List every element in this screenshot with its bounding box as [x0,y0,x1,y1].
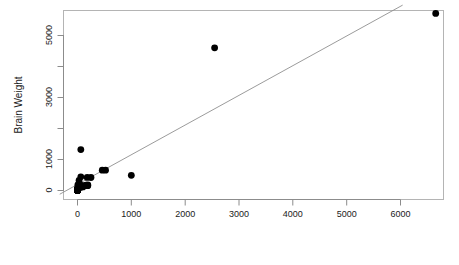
y-axis-ticks [58,36,64,191]
y-axis-title: Brain Weight [13,76,24,133]
plot-svg: 0 1000 3000 5000 Brain Weight 0 1000 200… [0,0,459,265]
x-ticklabel-5000: 5000 [337,209,357,219]
data-point [77,146,84,153]
y-ticklabel-5000: 5000 [44,25,54,45]
x-ticklabel-4000: 4000 [283,209,303,219]
x-axis-ticks [78,200,401,206]
x-ticklabel-2000: 2000 [175,209,195,219]
data-point [75,184,82,191]
data-point [99,167,106,174]
x-ticklabel-0: 0 [75,209,80,219]
data-point [211,44,218,51]
data-point [432,10,439,17]
data-point [128,172,135,179]
plot-panel-box [64,11,444,200]
data-points-layer [74,10,439,194]
x-ticklabel-6000: 6000 [390,209,410,219]
scatter-plot-figure: 0 1000 3000 5000 Brain Weight 0 1000 200… [0,0,459,265]
regression-line [60,5,403,194]
data-point [88,174,95,181]
y-ticklabel-0: 0 [44,187,54,192]
y-ticklabel-3000: 3000 [44,87,54,107]
x-ticklabel-1000: 1000 [121,209,141,219]
y-ticklabel-1000: 1000 [44,149,54,169]
x-ticklabel-3000: 3000 [229,209,249,219]
